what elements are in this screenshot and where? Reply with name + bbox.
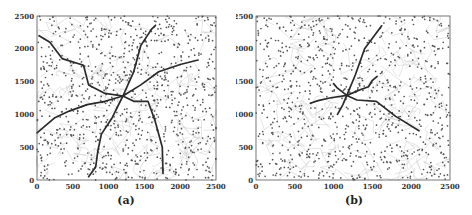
node-point	[320, 81, 322, 83]
node-point	[297, 141, 299, 143]
node-point	[77, 111, 79, 113]
node-point	[371, 90, 373, 92]
node-point	[293, 65, 295, 67]
node-point	[385, 59, 387, 61]
node-point	[188, 56, 190, 58]
node-point	[125, 172, 127, 174]
node-point	[407, 158, 409, 160]
thin-link	[272, 131, 291, 143]
thin-link	[102, 144, 121, 157]
node-point	[420, 88, 422, 90]
node-point	[319, 30, 321, 32]
node-point	[329, 73, 331, 75]
node-point	[196, 23, 198, 25]
node-point	[332, 133, 334, 135]
node-point	[160, 167, 162, 169]
node-point	[53, 33, 55, 35]
node-point	[209, 79, 211, 81]
node-point	[265, 39, 267, 41]
node-point	[41, 160, 43, 162]
node-point	[315, 78, 317, 80]
node-point	[447, 35, 449, 37]
node-point	[205, 108, 207, 110]
node-point	[380, 177, 382, 179]
node-point	[167, 85, 169, 87]
node-point	[353, 122, 355, 124]
node-point	[359, 116, 361, 118]
node-point	[156, 147, 158, 149]
node-point	[40, 67, 42, 69]
node-point	[321, 118, 323, 120]
node-point	[82, 83, 84, 85]
node-point	[308, 24, 310, 26]
node-point	[210, 54, 212, 56]
node-point	[202, 101, 204, 103]
node-point	[374, 103, 376, 105]
node-point	[40, 81, 42, 83]
node-point	[412, 88, 414, 90]
node-point	[332, 57, 334, 59]
node-point	[413, 151, 415, 153]
node-point	[124, 67, 126, 69]
node-point	[292, 101, 294, 103]
node-point	[373, 166, 375, 168]
thin-link	[114, 125, 132, 151]
node-point	[135, 129, 137, 131]
node-point	[435, 106, 437, 108]
node-point	[434, 134, 436, 136]
node-point	[389, 85, 391, 87]
node-point	[135, 139, 137, 141]
node-point	[397, 132, 399, 134]
node-point	[357, 150, 359, 152]
node-point	[383, 161, 385, 163]
node-point	[330, 65, 332, 67]
node-point	[290, 136, 292, 138]
thin-link	[106, 49, 124, 62]
node-point	[304, 90, 306, 92]
node-point	[444, 165, 446, 167]
node-point	[140, 73, 142, 75]
route-w-path	[310, 95, 347, 103]
node-point	[295, 56, 297, 58]
node-point	[295, 106, 297, 108]
node-point	[437, 61, 439, 63]
thin-link	[297, 47, 312, 65]
node-point	[208, 171, 210, 173]
node-point	[432, 81, 434, 83]
node-point	[72, 162, 74, 164]
node-point	[40, 137, 42, 139]
node-point	[280, 158, 282, 160]
node-point	[167, 80, 169, 82]
thin-link	[431, 92, 447, 113]
node-point	[309, 153, 311, 155]
node-point	[310, 85, 312, 87]
node-point	[407, 150, 409, 152]
node-point	[110, 33, 112, 35]
node-point	[64, 162, 66, 164]
node-point	[290, 80, 292, 82]
node-point	[189, 141, 191, 143]
node-point	[165, 163, 167, 165]
node-point	[360, 156, 362, 158]
node-point	[287, 102, 289, 104]
node-point	[85, 34, 87, 36]
node-point	[403, 164, 405, 166]
node-point	[92, 28, 94, 30]
node-point	[323, 26, 325, 28]
node-point	[103, 89, 105, 91]
node-point	[370, 25, 372, 27]
node-point	[361, 66, 363, 68]
node-point	[425, 78, 427, 80]
node-point	[123, 53, 125, 55]
node-point	[257, 173, 259, 175]
node-point	[310, 71, 312, 73]
node-point	[319, 20, 321, 22]
node-point	[413, 37, 415, 39]
node-point	[403, 96, 405, 98]
node-point	[310, 139, 312, 141]
node-point	[386, 146, 388, 148]
node-point	[70, 126, 72, 128]
node-point	[146, 96, 148, 98]
x-axis-ticks: 05001000150020002500	[254, 182, 460, 191]
node-point	[379, 110, 381, 112]
